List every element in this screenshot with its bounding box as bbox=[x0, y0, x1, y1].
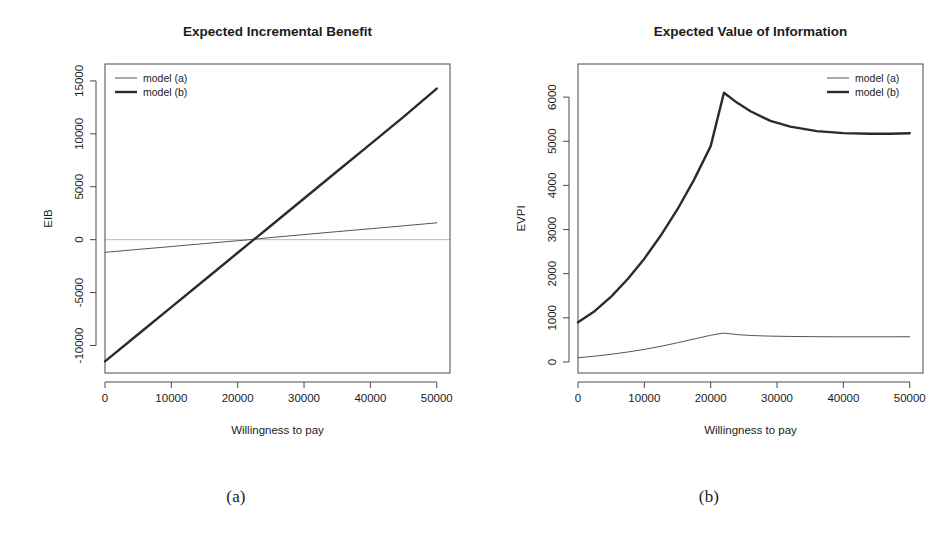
y-axis-tick-label: 10000 bbox=[73, 118, 85, 150]
y-axis-tick-label: 6000 bbox=[546, 84, 558, 110]
x-axis-tick-label: 20000 bbox=[695, 392, 727, 404]
x-axis-tick-label: 40000 bbox=[827, 392, 859, 404]
y-axis-tick-label: 15000 bbox=[73, 65, 85, 97]
legend-label-model-a: model (a) bbox=[143, 72, 187, 84]
eib-plot: Expected Incremental Benefit010000200003… bbox=[0, 0, 472, 480]
legend-label-model-b: model (b) bbox=[143, 86, 187, 98]
x-axis-tick-label: 10000 bbox=[628, 392, 660, 404]
x-axis-tick-label: 50000 bbox=[894, 392, 926, 404]
x-axis-tick-label: 30000 bbox=[288, 392, 320, 404]
y-axis-tick-label: 2000 bbox=[546, 261, 558, 287]
figure-container: Expected Incremental Benefit010000200003… bbox=[0, 0, 945, 542]
y-axis-tick-label: 0 bbox=[546, 359, 558, 365]
x-axis-label: Willingness to pay bbox=[704, 424, 797, 436]
chart-title: Expected Incremental Benefit bbox=[183, 24, 373, 39]
chart-panel-evpi: Expected Value of Information01000020000… bbox=[473, 0, 945, 542]
y-axis-label: EVPI bbox=[515, 205, 527, 231]
x-axis-tick-label: 0 bbox=[102, 392, 108, 404]
y-axis-label: EIB bbox=[42, 209, 54, 228]
y-axis-tick-label: -5000 bbox=[73, 278, 85, 307]
series-line-model-a bbox=[105, 223, 437, 253]
x-axis-label: Willingness to pay bbox=[231, 424, 324, 436]
chart-panel-eib: Expected Incremental Benefit010000200003… bbox=[0, 0, 472, 542]
y-axis-tick-label: 3000 bbox=[546, 217, 558, 243]
y-axis-tick-label: 0 bbox=[73, 236, 85, 242]
x-axis-tick-label: 10000 bbox=[155, 392, 187, 404]
caption-b: (b) bbox=[473, 487, 945, 507]
x-axis-tick-label: 30000 bbox=[761, 392, 793, 404]
caption-a: (a) bbox=[0, 487, 472, 507]
chart-title: Expected Value of Information bbox=[654, 24, 848, 39]
x-axis-tick-label: 20000 bbox=[222, 392, 254, 404]
y-axis-tick-label: 5000 bbox=[73, 174, 85, 200]
legend-label-model-b: model (b) bbox=[855, 86, 899, 98]
x-axis-tick-label: 40000 bbox=[354, 392, 386, 404]
series-line-model-b bbox=[105, 89, 437, 362]
series-line-model-a bbox=[578, 333, 910, 358]
x-axis-tick-label: 0 bbox=[575, 392, 581, 404]
y-axis-tick-label: -10000 bbox=[73, 328, 85, 364]
x-axis-tick-label: 50000 bbox=[421, 392, 453, 404]
plot-frame bbox=[105, 64, 450, 373]
series-line-model-b bbox=[578, 93, 910, 323]
y-axis-tick-label: 4000 bbox=[546, 173, 558, 199]
evpi-plot: Expected Value of Information01000020000… bbox=[473, 0, 945, 480]
legend-label-model-a: model (a) bbox=[855, 72, 899, 84]
y-axis-tick-label: 1000 bbox=[546, 305, 558, 331]
y-axis-tick-label: 5000 bbox=[546, 128, 558, 154]
